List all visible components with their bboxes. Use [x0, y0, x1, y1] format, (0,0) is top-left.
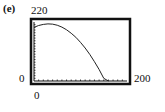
outer-frame: [31, 19, 130, 84]
axis-ticks: [34, 25, 122, 81]
series-line: [34, 24, 108, 81]
calculator-graph: [0, 0, 165, 112]
